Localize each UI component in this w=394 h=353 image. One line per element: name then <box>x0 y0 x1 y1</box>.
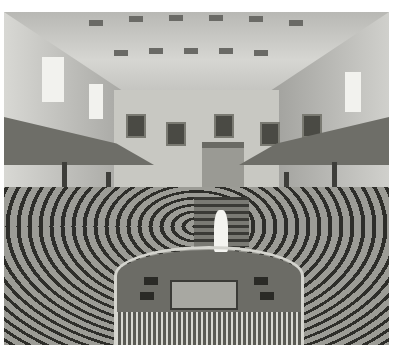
back-wall <box>114 90 279 200</box>
ceiling-coffer <box>89 20 103 26</box>
ceiling-coffer <box>209 15 223 21</box>
portrait-painting <box>166 122 186 146</box>
ceiling-coffer <box>249 16 263 22</box>
portrait-painting <box>126 114 146 138</box>
ceiling-coffer <box>149 48 163 54</box>
portrait-painting <box>214 114 234 138</box>
ceiling-coffer <box>254 50 268 56</box>
ceiling-coffer <box>184 48 198 54</box>
balustrade <box>116 312 302 345</box>
ceiling-coffer <box>169 15 183 21</box>
left-window <box>89 84 103 119</box>
ceiling-coffer <box>114 50 128 56</box>
ceiling-coffer <box>129 16 143 22</box>
portrait-painting <box>260 122 280 146</box>
right-window <box>345 72 361 112</box>
left-window <box>42 57 64 102</box>
lecture-theatre-photo <box>4 12 389 345</box>
ceiling-coffer <box>289 20 303 26</box>
ceiling-coffer <box>219 48 233 54</box>
